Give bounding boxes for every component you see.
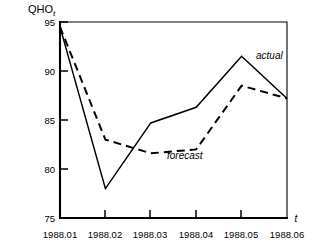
x-axis-label-1988-06: 1988.06 bbox=[270, 229, 304, 240]
line-chart: 95 90 85 80 75 1988.01 1988.02 1988.03 1… bbox=[0, 0, 330, 249]
y-axis-label-90: 90 bbox=[44, 66, 55, 77]
y-axis-label-80: 80 bbox=[44, 164, 55, 175]
chart-container: 95 90 85 80 75 1988.01 1988.02 1988.03 1… bbox=[0, 0, 330, 249]
x-axis-label-1988-02: 1988.02 bbox=[88, 229, 122, 240]
x-axis-labels: 1988.01 1988.02 1988.03 1988.04 1988.05 … bbox=[43, 229, 304, 240]
series-annotation-forecast: forecast bbox=[167, 150, 204, 161]
x-axis-label-1988-05: 1988.05 bbox=[224, 229, 258, 240]
x-tick-marks bbox=[105, 210, 241, 218]
series-annotation-actual: actual bbox=[256, 50, 283, 61]
x-axis-label-1988-03: 1988.03 bbox=[133, 229, 167, 240]
y-axis-labels: 95 90 85 80 75 bbox=[44, 17, 55, 224]
y-axis-label-95: 95 bbox=[44, 17, 55, 28]
y-axis-label-75: 75 bbox=[44, 213, 55, 224]
x-axis-label-1988-04: 1988.04 bbox=[179, 229, 213, 240]
y-axis-title-subscript: t bbox=[53, 9, 56, 18]
y-axis-title-main: QHO bbox=[28, 3, 54, 15]
series-line-actual bbox=[60, 27, 287, 189]
x-axis-label-1988-01: 1988.01 bbox=[43, 229, 77, 240]
y-axis-title: QHOt bbox=[28, 3, 56, 18]
chart-axes bbox=[60, 22, 287, 218]
series-line-forecast bbox=[60, 27, 287, 153]
plot-frame bbox=[60, 22, 287, 218]
x-axis-title: t bbox=[295, 213, 299, 224]
y-axis-label-85: 85 bbox=[44, 115, 55, 126]
